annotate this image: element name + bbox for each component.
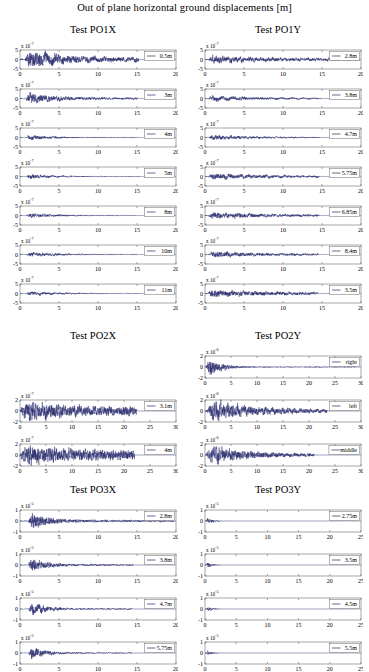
section-title-po1x: Test PO1X (4, 24, 182, 35)
x-tick-label: 5 (243, 266, 246, 272)
x-tick-label: 20 (358, 188, 363, 194)
x-tick-label: 15 (134, 305, 140, 311)
x-tick-label: 20 (358, 305, 363, 311)
y-tick-label: 0 (200, 213, 203, 219)
y-tick-label: 1 (200, 595, 203, 601)
y-tick-label: 0 (15, 135, 18, 141)
y-tick-label: -5 (198, 144, 203, 150)
legend-label: 6.85m (342, 209, 358, 215)
y-tick-label: 0 (15, 213, 18, 219)
x-tick-label: 5 (243, 227, 246, 233)
y-tick-label: 0 (200, 96, 203, 102)
x-tick-label: 5 (58, 188, 61, 194)
x-tick-label: 5 (235, 666, 238, 672)
x-tick-label: 15 (319, 149, 325, 155)
x-tick-label: 15 (319, 227, 325, 233)
x-tick-label: 15 (95, 424, 101, 430)
y-tick-label: 5 (200, 203, 203, 209)
y-tick-label: 0 (15, 252, 18, 258)
x-tick-label: 20 (173, 266, 178, 272)
x-tick-label: 5 (58, 227, 61, 233)
legend-label: 10m (161, 248, 172, 254)
x-tick-label: 30 (173, 424, 178, 430)
x-tick-label: 15 (134, 578, 140, 584)
plot-svg: 05101520-5054.7m (191, 124, 363, 155)
plot-panel-po2y-3: 051015202530-202middle (191, 440, 363, 474)
plot-panel-po3y-2: 0510152025-1013.5m (191, 550, 363, 584)
x-tick-label: 20 (327, 622, 333, 628)
x-tick-label: 5 (243, 305, 246, 311)
y-tick-label: 1 (200, 639, 203, 645)
x-tick-label: 20 (358, 71, 363, 77)
plot-svg: 05101520-50511m (6, 280, 178, 311)
y-tick-label: 5 (15, 164, 18, 170)
plot-panel-po3y-4: 0510152025-1015.5m (191, 638, 363, 672)
plot-svg: 05101520-5050.5m (6, 46, 178, 77)
plot-svg: 0510152025-1015.5m (191, 638, 363, 672)
x-tick-label: 15 (319, 71, 325, 77)
x-tick-label: 15 (95, 468, 101, 474)
x-tick-label: 20 (358, 110, 363, 116)
y-tick-label: 0 (15, 174, 18, 180)
x-tick-label: 20 (358, 149, 363, 155)
legend-label: left (349, 403, 357, 409)
y-tick-label: 2 (15, 441, 18, 447)
section-title-po2x: Test PO2X (4, 330, 182, 341)
x-tick-label: 20 (173, 188, 178, 194)
x-tick-label: 5 (58, 71, 61, 77)
y-tick-label: 0 (15, 291, 18, 297)
x-tick-label: 5 (45, 468, 48, 474)
x-tick-label: 10 (280, 305, 286, 311)
x-tick-label: 30 (358, 380, 363, 386)
plot-svg: 05101520-5055m (6, 163, 178, 194)
plot-svg: 05101520-5058m (6, 202, 178, 233)
plot-svg: 05101520-5055.75m (191, 163, 363, 194)
x-tick-label: 15 (134, 110, 140, 116)
y-tick-label: -1 (198, 573, 203, 579)
x-tick-label: 30 (358, 468, 363, 474)
x-tick-label: 10 (280, 110, 286, 116)
y-tick-label: 2 (200, 441, 203, 447)
y-tick-label: -5 (13, 300, 18, 306)
x-tick-label: 0 (204, 266, 207, 272)
x-tick-label: 5 (58, 666, 61, 672)
figure-title: Out of plane horizontal ground displacem… (0, 2, 369, 13)
x-tick-label: 0 (19, 71, 22, 77)
x-tick-label: 10 (69, 468, 75, 474)
legend-label: 3.5m (345, 287, 358, 293)
y-tick-label: -5 (13, 144, 18, 150)
y-tick-label: 0 (15, 606, 18, 612)
figure-root: Out of plane horizontal ground displacem… (0, 0, 369, 672)
x-tick-label: 10 (254, 424, 260, 430)
y-tick-label: 0 (200, 606, 203, 612)
y-tick-label: 5 (15, 281, 18, 287)
y-tick-label: 0 (15, 518, 18, 524)
y-tick-label: 5 (200, 47, 203, 53)
y-tick-label: -1 (13, 529, 18, 535)
legend-label: 2.75m (342, 513, 358, 519)
x-tick-label: 5 (243, 149, 246, 155)
x-tick-label: 0 (204, 305, 207, 311)
plot-panel-po1x-3: 05101520-5054m (6, 124, 178, 155)
legend-label: 4.5m (345, 601, 358, 607)
x-tick-label: 0 (204, 149, 207, 155)
plot-svg: 05101520-5052.8m (191, 46, 363, 77)
y-tick-label: -2 (13, 419, 18, 425)
plot-svg: 05101520-5056.85m (191, 202, 363, 233)
y-tick-label: -2 (198, 375, 203, 381)
x-tick-label: 0 (19, 622, 22, 628)
legend-label: 2.8m (160, 513, 173, 519)
legend-label: 3.8m (345, 92, 358, 98)
x-tick-label: 0 (19, 468, 22, 474)
x-tick-label: 20 (173, 149, 178, 155)
legend-label: 8.4m (345, 248, 358, 254)
y-tick-label: 0 (200, 252, 203, 258)
legend-label: 3.5m (345, 557, 358, 563)
plot-svg: 05101520-5054m (6, 124, 178, 155)
x-tick-label: 0 (19, 110, 22, 116)
legend-label: 5.75m (342, 170, 358, 176)
x-tick-label: 15 (296, 622, 302, 628)
y-tick-label: 1 (15, 639, 18, 645)
x-tick-label: 10 (95, 227, 101, 233)
plot-svg: 05101520-5058.4m (191, 241, 363, 272)
